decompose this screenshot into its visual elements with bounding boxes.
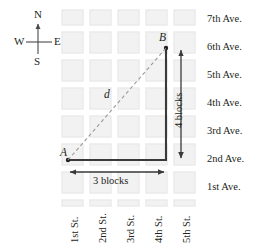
avenue-label-6th: 6th Ave. — [207, 41, 242, 52]
measure-horizontal-label: 3 blocks — [93, 175, 128, 186]
city-grid-figure — [0, 0, 260, 248]
compass-north-label: N — [34, 8, 42, 20]
street-label-2nd: 2nd St. — [97, 213, 108, 243]
compass-rose — [26, 24, 52, 54]
street-label-5th: 5th St. — [181, 216, 192, 243]
point-a-label: A — [60, 146, 67, 158]
compass-east-label: E — [54, 35, 61, 47]
avenue-label-5th: 5th Ave. — [207, 69, 242, 80]
avenue-label-3rd: 3rd Ave. — [207, 125, 242, 136]
avenue-label-7th: 7th Ave. — [207, 13, 242, 24]
street-label-3rd: 3rd St. — [125, 215, 136, 243]
compass-west-label: W — [14, 35, 24, 47]
measure-vertical-label: 4 blocks — [173, 93, 184, 128]
avenue-label-4th: 4th Ave. — [207, 97, 242, 108]
street-label-4th: 4th St. — [153, 216, 164, 243]
street-label-1st: 1st St. — [69, 217, 80, 243]
distance-d-label: d — [104, 88, 110, 100]
avenue-label-2nd: 2nd Ave. — [207, 153, 244, 164]
point-b-label: B — [159, 31, 166, 43]
avenue-label-1st: 1st Ave. — [207, 181, 241, 192]
compass-south-label: S — [34, 55, 40, 67]
